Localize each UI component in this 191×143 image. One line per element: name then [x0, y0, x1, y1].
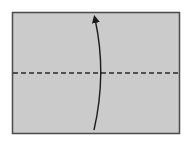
origami-diagram	[0, 0, 191, 143]
